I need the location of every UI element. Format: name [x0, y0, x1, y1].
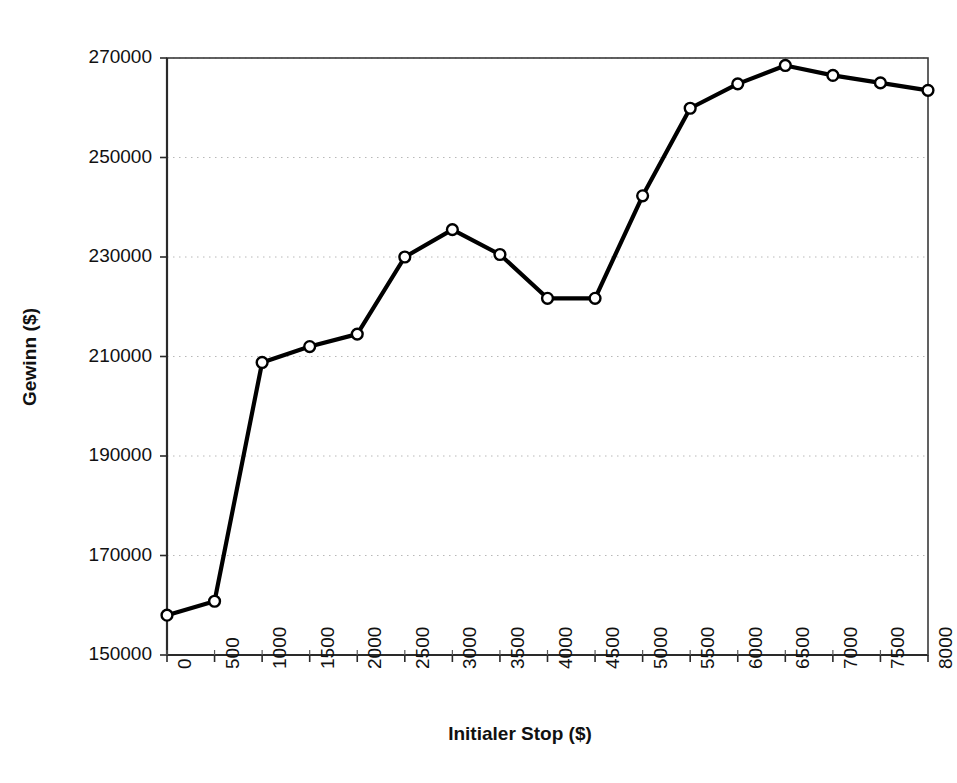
x-tick-label: 0 [174, 658, 196, 669]
data-point-marker [875, 77, 886, 88]
x-tick-label: 2500 [412, 627, 434, 669]
y-tick-label: 270000 [40, 46, 152, 68]
series-line [167, 65, 928, 615]
data-point-marker [399, 252, 410, 263]
x-tick-label: 1500 [317, 627, 339, 669]
data-point-marker [352, 329, 363, 340]
x-tick-label: 4500 [602, 627, 624, 669]
data-point-marker [162, 610, 173, 621]
data-point-marker [447, 224, 458, 235]
x-tick-label: 7000 [840, 627, 862, 669]
y-tick-label: 250000 [40, 146, 152, 168]
data-point-marker [637, 190, 648, 201]
y-tick-label: 170000 [40, 544, 152, 566]
data-series-line [167, 65, 928, 615]
data-point-marker [304, 341, 315, 352]
x-tick-label: 3000 [459, 627, 481, 669]
x-tick-label: 5500 [697, 627, 719, 669]
data-point-marker [732, 78, 743, 89]
data-series-markers [162, 60, 934, 621]
y-tick-label: 230000 [40, 245, 152, 267]
x-tick-label: 3500 [507, 627, 529, 669]
data-point-marker [827, 70, 838, 81]
y-tick-label: 210000 [40, 345, 152, 367]
x-tick-label: 4000 [555, 627, 577, 669]
x-tick-label: 6500 [792, 627, 814, 669]
data-point-marker [590, 293, 601, 304]
x-axis-title: Initialer Stop ($) [0, 723, 952, 745]
data-point-marker [685, 103, 696, 114]
x-tick-label: 1000 [269, 627, 291, 669]
gridlines [167, 58, 928, 556]
x-tick-label: 7500 [887, 627, 909, 669]
data-point-marker [257, 357, 268, 368]
x-tick-label: 2000 [364, 627, 386, 669]
x-tick-label: 8000 [935, 627, 957, 669]
x-tick-label: 500 [222, 637, 244, 669]
y-tick-label: 190000 [40, 444, 152, 466]
x-tick-label: 5000 [650, 627, 672, 669]
data-point-marker [923, 85, 934, 96]
data-point-marker [209, 596, 220, 607]
data-point-marker [780, 60, 791, 71]
data-point-marker [495, 249, 506, 260]
x-tick-label: 6000 [745, 627, 767, 669]
y-tick-label: 150000 [40, 643, 152, 665]
data-point-marker [542, 293, 553, 304]
x-axis-title-text: Initialer Stop ($) [448, 723, 592, 744]
